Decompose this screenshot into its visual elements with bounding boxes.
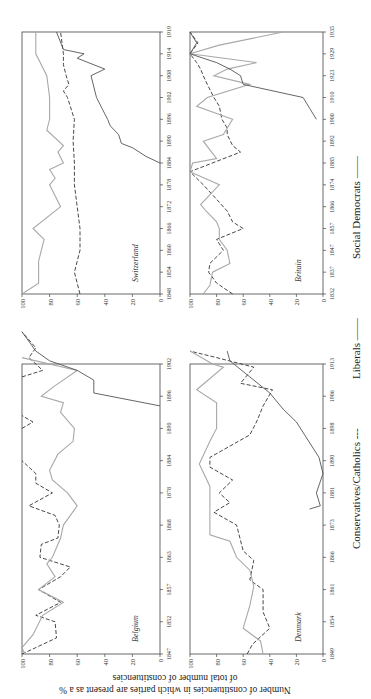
y-tick-label: 40 bbox=[102, 659, 109, 666]
series-line-social-democrats bbox=[57, 32, 161, 163]
x-tick-label: 1863 bbox=[166, 551, 172, 563]
x-tick-label: 1874 bbox=[329, 179, 335, 191]
y-tick-label: 40 bbox=[267, 299, 274, 306]
x-tick-label: 1860 bbox=[166, 244, 172, 256]
y-tick-label: 60 bbox=[74, 299, 81, 306]
panel-britain: 0204060801001832183718471857186618741885… bbox=[187, 26, 335, 309]
x-tick-label: 1854 bbox=[329, 616, 335, 628]
y-tick-label: 80 bbox=[214, 299, 221, 306]
y-tick-label: 20 bbox=[293, 299, 300, 306]
x-tick-label: 1873 bbox=[329, 519, 335, 531]
series-line-liberals bbox=[22, 358, 77, 654]
x-tick-label: 1890 bbox=[329, 455, 335, 467]
x-tick-label: 1866 bbox=[329, 201, 335, 213]
x-tick-label: 1908 bbox=[166, 70, 172, 82]
y-tick-label: 80 bbox=[47, 659, 54, 666]
x-tick-label: 1832 bbox=[329, 288, 335, 300]
x-tick-label: 1914 bbox=[166, 48, 172, 60]
x-tick-label: 1898 bbox=[329, 422, 335, 434]
y-tick-label: 0 bbox=[320, 659, 327, 662]
y-axis-title: Number of constituencies in which partie… bbox=[59, 673, 291, 695]
series-line-conservatives-catholics bbox=[190, 32, 243, 294]
x-tick-label: 1910 bbox=[329, 92, 335, 104]
x-tick-label: 1857 bbox=[329, 223, 335, 235]
y-axis-title-line2: of total number of constituencies bbox=[112, 673, 237, 683]
series-line-conservatives-catholics bbox=[190, 351, 273, 654]
y-tick-label: 20 bbox=[129, 659, 136, 666]
series-line-conservatives-catholics bbox=[22, 332, 43, 377]
series-line-liberals bbox=[22, 32, 63, 294]
x-tick-label: 1866 bbox=[329, 551, 335, 563]
x-tick-label: 1857 bbox=[166, 584, 172, 596]
y-tick-label: 20 bbox=[293, 659, 300, 666]
x-tick-label: 1878 bbox=[166, 179, 172, 191]
x-tick-label: 1847 bbox=[166, 648, 172, 660]
x-tick-label: 1837 bbox=[329, 266, 335, 278]
x-tick-label: 1872 bbox=[166, 201, 172, 213]
y-tick-label: 60 bbox=[240, 299, 247, 306]
plot-frame bbox=[190, 32, 323, 294]
x-tick-label: 1890 bbox=[166, 422, 172, 434]
y-tick-label: 0 bbox=[320, 299, 327, 302]
y-tick-label: 0 bbox=[157, 659, 164, 662]
x-tick-label: 1929 bbox=[329, 48, 335, 60]
x-tick-label: 1866 bbox=[166, 223, 172, 235]
panel-title: Belgium bbox=[131, 615, 140, 642]
x-tick-label: 1906 bbox=[329, 390, 335, 402]
y-tick-label: 40 bbox=[102, 299, 109, 306]
y-tick-label: 20 bbox=[129, 299, 136, 306]
y-tick-label: 100 bbox=[19, 659, 26, 669]
x-tick-label: 1881 bbox=[329, 487, 335, 499]
y-tick-label: 100 bbox=[19, 299, 26, 309]
x-tick-label: 1854 bbox=[166, 266, 172, 278]
figure-canvas: Number of constituencies in which partie… bbox=[0, 0, 371, 699]
series-line-conservatives-catholics bbox=[22, 416, 33, 429]
y-tick-label: 60 bbox=[74, 659, 81, 666]
x-tick-label: 1913 bbox=[329, 358, 335, 370]
series-line-liberals bbox=[190, 32, 283, 294]
x-tick-label: 1848 bbox=[166, 288, 172, 300]
x-tick-label: 1923 bbox=[329, 70, 335, 82]
y-tick-label: 80 bbox=[47, 299, 54, 306]
panel-title: Denmark bbox=[294, 612, 303, 643]
panel-title: Britain bbox=[294, 259, 303, 282]
y-tick-label: 100 bbox=[187, 659, 194, 669]
legend-social-democrats: Social Democrats —— bbox=[350, 155, 362, 259]
panel-denmark: 0204060801001849185418611866187318811890… bbox=[187, 351, 335, 669]
x-tick-label: 1919 bbox=[166, 26, 172, 38]
series-line-social-democrats bbox=[190, 32, 316, 119]
y-tick-label: 100 bbox=[187, 299, 194, 309]
panel-title: Switzerland bbox=[131, 243, 140, 282]
legend-liberals: Liberals —— bbox=[350, 317, 362, 379]
legend: Conservatives/Catholics --- Liberals —— … bbox=[350, 155, 362, 549]
x-tick-label: 1861 bbox=[329, 584, 335, 596]
x-tick-label: 1890 bbox=[166, 135, 172, 147]
x-tick-label: 1849 bbox=[329, 648, 335, 660]
y-axis-title-line1: Number of constituencies in which partie… bbox=[59, 685, 291, 695]
x-tick-label: 1878 bbox=[166, 487, 172, 499]
series-line-liberals bbox=[190, 351, 263, 654]
x-tick-label: 1902 bbox=[166, 358, 172, 370]
panel-belgium: 0204060801001847185218571863186818781884… bbox=[19, 332, 172, 669]
panel-switzerland: 0204060801001848185418601866187218781884… bbox=[19, 26, 172, 309]
x-tick-label: 1902 bbox=[166, 92, 172, 104]
y-tick-label: 80 bbox=[214, 659, 221, 666]
x-tick-label: 1896 bbox=[166, 113, 172, 125]
x-tick-label: 1852 bbox=[166, 616, 172, 628]
series-line-social-democrats bbox=[227, 351, 323, 509]
rotated-figure-page: Number of constituencies in which partie… bbox=[0, 0, 371, 699]
x-tick-label: 1892 bbox=[329, 135, 335, 147]
x-tick-label: 1900 bbox=[329, 113, 335, 125]
x-tick-label: 1868 bbox=[166, 519, 172, 531]
x-tick-label: 1896 bbox=[166, 390, 172, 402]
y-tick-label: 0 bbox=[157, 299, 164, 302]
x-tick-label: 1884 bbox=[166, 157, 172, 169]
y-tick-label: 60 bbox=[240, 659, 247, 666]
legend-conservatives: Conservatives/Catholics --- bbox=[350, 428, 362, 549]
x-tick-label: 1847 bbox=[329, 244, 335, 256]
x-tick-label: 1885 bbox=[329, 157, 335, 169]
x-tick-label: 1935 bbox=[329, 26, 335, 38]
plot-frame bbox=[22, 364, 160, 654]
x-tick-label: 1884 bbox=[166, 455, 172, 467]
y-tick-label: 40 bbox=[267, 659, 274, 666]
